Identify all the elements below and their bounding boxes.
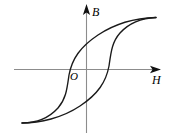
hysteresis-descending-branch bbox=[22, 18, 156, 124]
h-axis-label: H bbox=[152, 74, 161, 86]
origin-label: O bbox=[70, 71, 78, 82]
hysteresis-svg bbox=[0, 0, 174, 140]
hysteresis-ascending-branch bbox=[22, 18, 156, 124]
b-axis-label: B bbox=[92, 6, 99, 18]
hysteresis-figure: B H O bbox=[0, 0, 174, 140]
